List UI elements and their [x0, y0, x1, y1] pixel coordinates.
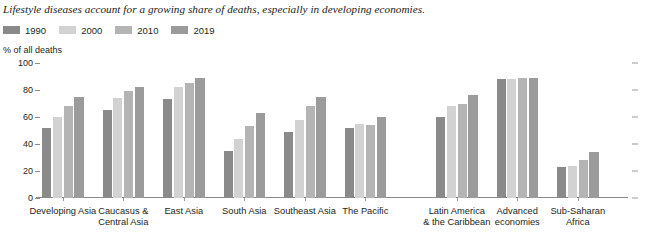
legend-item[interactable]: 2000: [59, 25, 102, 36]
legend-label: 2010: [137, 25, 158, 36]
x-axis-category-label: Advanced economies: [495, 206, 540, 228]
y-axis-right-tick: [632, 144, 638, 145]
x-axis-tick: [457, 198, 458, 201]
x-axis-tick: [305, 198, 306, 201]
bar[interactable]: [436, 117, 445, 198]
bar[interactable]: [355, 124, 364, 198]
legend-label: 1990: [25, 25, 46, 36]
bar[interactable]: [589, 152, 598, 198]
bar[interactable]: [284, 132, 293, 198]
bar[interactable]: [529, 78, 538, 198]
legend-swatch: [3, 26, 20, 34]
bar[interactable]: [195, 78, 204, 198]
bar[interactable]: [113, 98, 122, 198]
y-axis-tick-label: 20: [2, 166, 40, 176]
y-axis-right-tick: [632, 171, 638, 172]
plot-area: 020406080100: [40, 63, 632, 198]
y-axis-tick-label: 60: [2, 112, 40, 122]
bar[interactable]: [245, 126, 254, 198]
bar[interactable]: [458, 104, 467, 199]
legend-swatch: [59, 26, 76, 34]
legend-item[interactable]: 2019: [171, 25, 214, 36]
legend-item[interactable]: 1990: [3, 25, 46, 36]
bar[interactable]: [518, 78, 527, 198]
y-axis-right-tick: [632, 198, 638, 199]
bar[interactable]: [497, 79, 506, 198]
bar[interactable]: [345, 128, 354, 198]
x-axis-tick: [365, 198, 366, 201]
x-axis-tick: [517, 198, 518, 201]
x-axis-tick: [244, 198, 245, 201]
legend-label: 2000: [81, 25, 102, 36]
x-axis-category-label: Latin America & the Caribbean: [423, 206, 490, 228]
chart-container: Lifestyle diseases account for a growing…: [0, 0, 646, 243]
y-axis-tick-label: 40: [2, 139, 40, 149]
bar[interactable]: [234, 139, 243, 198]
y-axis-tick-label: 0: [2, 193, 40, 203]
x-axis-category-label: Developing Asia: [29, 206, 96, 217]
bar[interactable]: [74, 97, 83, 198]
bar[interactable]: [256, 113, 265, 198]
x-axis-category-label: Sub-Saharan Africa: [550, 206, 605, 228]
bar[interactable]: [557, 167, 566, 198]
bar[interactable]: [468, 95, 477, 198]
bar[interactable]: [507, 79, 516, 198]
chart-title: Lifestyle diseases account for a growing…: [3, 3, 425, 16]
bar[interactable]: [103, 110, 112, 198]
legend-swatch: [171, 26, 188, 34]
x-axis-category-label: East Asia: [164, 206, 203, 217]
bar[interactable]: [224, 151, 233, 198]
bar[interactable]: [366, 125, 375, 198]
x-axis-category-label: The Pacific: [342, 206, 388, 217]
bar[interactable]: [568, 166, 577, 198]
bar[interactable]: [295, 120, 304, 198]
y-axis-title: % of all deaths: [3, 45, 62, 55]
x-axis-category-label: Caucasus & Central Asia: [98, 206, 148, 228]
y-axis-right-tick: [632, 63, 638, 64]
y-axis-tick-label: 100: [2, 58, 40, 68]
legend-item[interactable]: 2010: [115, 25, 158, 36]
plot-inner: 020406080100: [40, 63, 632, 198]
y-axis-right-tick: [632, 117, 638, 118]
y-axis-tick-label: 80: [2, 85, 40, 95]
x-axis-tick: [63, 198, 64, 201]
bar[interactable]: [447, 106, 456, 198]
bar[interactable]: [174, 87, 183, 198]
bar[interactable]: [53, 117, 62, 198]
x-axis-category-label: Southeast Asia: [274, 206, 336, 217]
bar[interactable]: [377, 117, 386, 198]
x-axis-tick: [184, 198, 185, 201]
bar[interactable]: [135, 87, 144, 198]
bar[interactable]: [42, 128, 51, 198]
bar[interactable]: [124, 91, 133, 198]
x-axis-category-label: South Asia: [222, 206, 266, 217]
bar[interactable]: [316, 97, 325, 198]
x-axis-tick: [123, 198, 124, 201]
bar[interactable]: [306, 106, 315, 198]
bar[interactable]: [185, 83, 194, 198]
x-axis-tick: [578, 198, 579, 201]
chart-legend: 1990200020102019: [3, 24, 228, 36]
bar[interactable]: [579, 160, 588, 198]
legend-label: 2019: [193, 25, 214, 36]
y-axis-right-tick: [632, 90, 638, 91]
legend-swatch: [115, 26, 132, 34]
bar[interactable]: [163, 99, 172, 198]
bar[interactable]: [64, 106, 73, 198]
